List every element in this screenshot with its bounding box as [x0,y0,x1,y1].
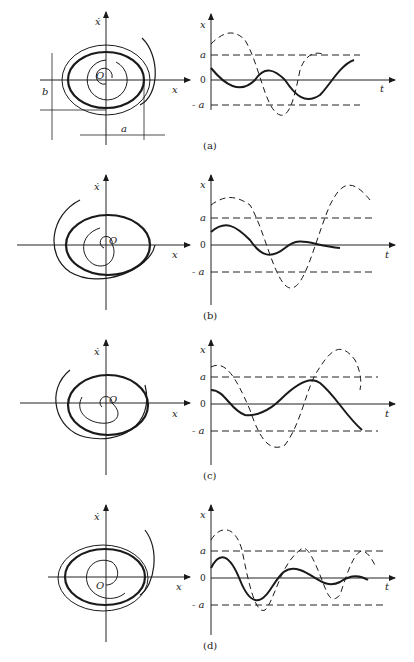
dim-b-label: b [42,86,48,97]
xdot-axis-label: ẋ [94,511,100,522]
origin-label: O [109,235,117,246]
panel-a: b a ẋ x O x t a 0 - a (a) [0,0,414,160]
x-axis-label: x [172,84,178,95]
caption-a: (a) [203,140,217,151]
panel-b: ẋ x O x t a 0 - a (b) [0,160,414,325]
origin-label: O [96,70,104,81]
time-t-label: t [385,581,390,592]
caption-c: (c) [203,470,216,481]
tick-a: a [200,49,206,60]
time-y-label: x [200,179,206,190]
phase-portrait-d: ẋ x O x t a 0 - a [0,490,414,662]
tick-a: a [200,212,206,223]
tick-0: 0 [200,75,206,85]
x-axis-label: x [172,408,178,419]
caption-d: (d) [203,640,217,651]
tick-0: 0 [200,573,206,583]
panel-d: ẋ x O x t a 0 - a (d) [0,490,414,662]
xdot-axis-label: ẋ [94,181,100,192]
tick-neg-a: - a [192,425,205,436]
tick-neg-a: - a [192,599,205,610]
tick-a: a [200,545,206,556]
caption-b: (b) [203,310,217,321]
phase-portrait-c: ẋ x O x t a 0 - a [0,325,414,490]
time-t-label: t [380,83,385,94]
time-t-label: t [385,408,390,419]
origin-label: O [96,580,104,591]
tick-0: 0 [200,399,206,409]
time-y-label: x [200,344,206,355]
tick-neg-a: - a [192,266,205,277]
phase-portrait-a: b a ẋ x O x t a 0 - a [0,0,414,160]
x-axis-label: x [172,249,178,260]
xdot-axis-label: ẋ [95,16,101,27]
time-y-label: x [200,19,206,30]
dim-a-label: a [121,123,127,134]
time-t-label: t [385,249,390,260]
tick-a: a [200,371,206,382]
panel-c: ẋ x O x t a 0 - a (c) [0,325,414,490]
x-axis-label: x [176,581,182,592]
xdot-axis-label: ẋ [94,346,100,357]
tick-0: 0 [200,240,206,250]
origin-label: O [109,394,117,405]
tick-neg-a: - a [192,99,205,110]
phase-portrait-b: ẋ x O x t a 0 - a [0,160,414,325]
time-y-label: x [200,509,206,520]
